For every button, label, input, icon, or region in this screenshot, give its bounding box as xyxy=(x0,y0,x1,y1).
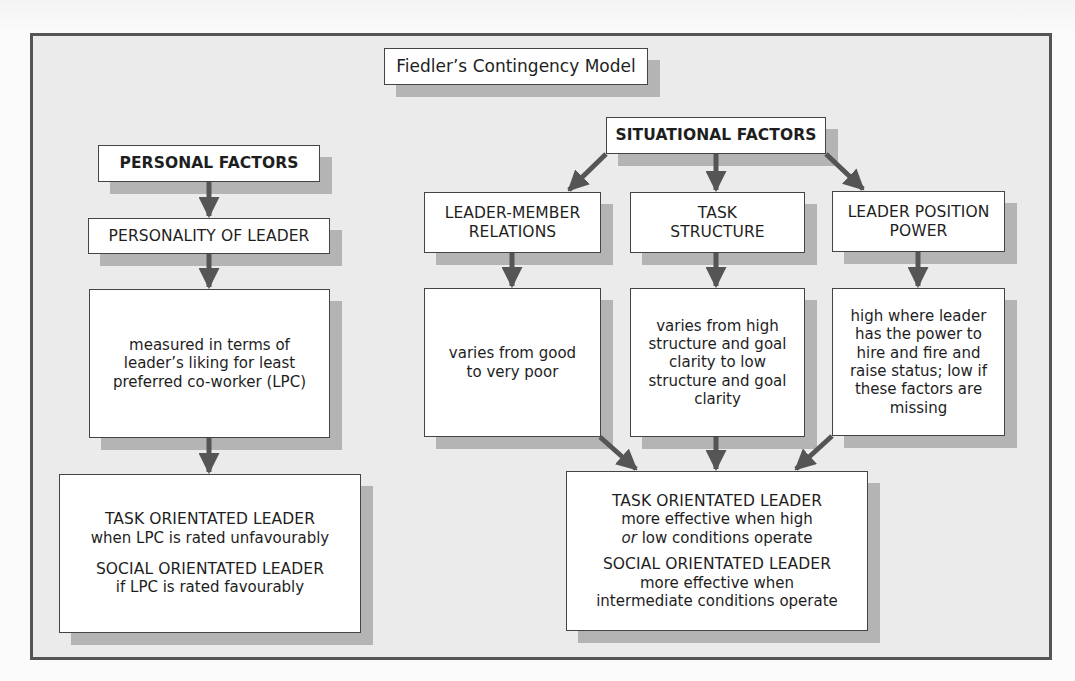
leader-position-power-description: high where leader has the power to hire … xyxy=(839,307,998,417)
sit-social-oriented-leader-line2: intermediate conditions operate xyxy=(596,592,838,610)
leader-member-relations-box: LEADER-MEMBER RELATIONS xyxy=(424,192,601,253)
leader-member-relations-label-2: RELATIONS xyxy=(469,223,557,242)
sit-social-oriented-leader-title: SOCIAL ORIENTATED LEADER xyxy=(603,555,831,574)
personal-outcome-box: TASK ORIENTATED LEADER when LPC is rated… xyxy=(59,474,361,633)
personality-of-leader-box: PERSONALITY OF LEADER xyxy=(88,218,330,254)
social-oriented-leader-condition: if LPC is rated favourably xyxy=(116,578,304,596)
situational-outcome-box: TASK ORIENTATED LEADER more effective wh… xyxy=(566,471,868,631)
sit-task-oriented-leader-title: TASK ORIENTATED LEADER xyxy=(612,492,822,511)
lpc-description-box: measured in terms of leader’s liking for… xyxy=(89,289,330,438)
task-structure-description-box: varies from high structure and goal clar… xyxy=(630,288,805,437)
personal-factors-box: PERSONAL FACTORS xyxy=(98,145,320,182)
situational-factors-label: SITUATIONAL FACTORS xyxy=(615,126,816,145)
leader-position-power-label-2: POWER xyxy=(890,222,948,241)
sit-task-oriented-leader-line2: or low conditions operate xyxy=(622,529,813,547)
task-structure-box: TASK STRUCTURE xyxy=(630,192,805,253)
task-oriented-leader-condition: when LPC is rated unfavourably xyxy=(91,529,329,547)
task-structure-description: varies from high structure and goal clar… xyxy=(637,317,798,408)
leader-member-description-box: varies from good to very poor xyxy=(424,288,601,437)
leader-position-power-box: LEADER POSITION POWER xyxy=(832,191,1005,252)
situational-factors-box: SITUATIONAL FACTORS xyxy=(606,117,826,154)
task-structure-label-2: STRUCTURE xyxy=(670,223,765,242)
leader-member-relations-label-1: LEADER-MEMBER xyxy=(445,204,581,223)
social-oriented-leader-title: SOCIAL ORIENTATED LEADER xyxy=(96,560,324,579)
personality-of-leader-label: PERSONALITY OF LEADER xyxy=(109,227,310,246)
task-oriented-leader-title: TASK ORIENTATED LEADER xyxy=(105,510,315,529)
leader-member-description: varies from good to very poor xyxy=(439,344,586,381)
personal-factors-label: PERSONAL FACTORS xyxy=(119,154,298,173)
leader-position-power-label-1: LEADER POSITION xyxy=(848,203,990,222)
lpc-description: measured in terms of leader’s liking for… xyxy=(98,336,321,391)
task-structure-label-1: TASK xyxy=(698,204,737,223)
or-emphasis: or xyxy=(622,529,637,547)
leader-position-power-description-box: high where leader has the power to hire … xyxy=(832,288,1005,436)
sit-task-oriented-leader-line1: more effective when high xyxy=(621,510,813,528)
sit-social-oriented-leader-line1: more effective when xyxy=(640,574,794,592)
diagram-title-box: Fiedler’s Contingency Model xyxy=(384,48,648,85)
page-background-bleed xyxy=(0,0,1075,33)
sit-task-oriented-leader-line2-rest: low conditions operate xyxy=(637,529,812,547)
diagram-title: Fiedler’s Contingency Model xyxy=(396,56,635,77)
